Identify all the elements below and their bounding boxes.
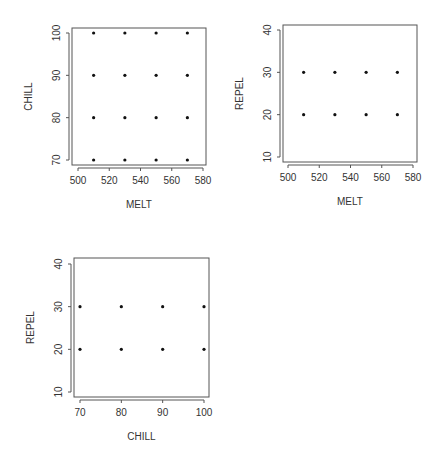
data-point	[396, 71, 399, 74]
plot-frame	[74, 258, 209, 397]
data-point	[365, 113, 368, 116]
data-point	[186, 74, 189, 77]
x-tick-label: 540	[342, 172, 359, 183]
data-point	[302, 71, 305, 74]
x-tick-label: 580	[195, 175, 212, 186]
data-point	[123, 31, 126, 34]
x-tick-label: 580	[405, 172, 422, 183]
y-tick-label: 10	[53, 386, 64, 398]
x-tick-label: 540	[132, 175, 149, 186]
data-point	[333, 71, 336, 74]
data-point	[92, 31, 95, 34]
x-tick-label: 90	[157, 407, 169, 418]
x-tick-label: 560	[373, 172, 390, 183]
data-point	[123, 116, 126, 119]
data-point	[155, 116, 158, 119]
y-axis-label: REPEL	[25, 311, 36, 344]
scatter-plot-repel-vs-melt: 500520540560580MELT10203040REPEL	[234, 24, 422, 207]
x-tick-label: 520	[101, 175, 118, 186]
data-point	[78, 305, 81, 308]
data-point	[123, 158, 126, 161]
y-tick-label: 80	[51, 112, 62, 124]
data-point	[92, 116, 95, 119]
plot-frame	[283, 25, 417, 162]
data-point	[186, 116, 189, 119]
x-tick-label: 100	[196, 407, 213, 418]
x-tick-label: 500	[70, 175, 87, 186]
scatter-plot-chill-vs-melt: 500520540560580MELT708090100CHILL	[23, 24, 212, 210]
x-tick-label: 70	[74, 407, 86, 418]
y-axis-label: CHILL	[23, 82, 34, 111]
x-axis-label: MELT	[337, 196, 363, 207]
data-point	[120, 348, 123, 351]
data-point	[302, 113, 305, 116]
y-tick-label: 30	[262, 66, 273, 78]
data-point	[186, 31, 189, 34]
data-point	[92, 158, 95, 161]
data-point	[202, 305, 205, 308]
data-point	[78, 348, 81, 351]
x-axis-label: CHILL	[127, 431, 156, 442]
y-axis-label: REPEL	[234, 77, 245, 110]
plot-frame	[72, 28, 206, 165]
data-point	[333, 113, 336, 116]
y-tick-label: 10	[262, 151, 273, 163]
data-point	[155, 158, 158, 161]
data-point	[155, 74, 158, 77]
data-point	[155, 31, 158, 34]
x-tick-label: 520	[311, 172, 328, 183]
data-point	[365, 71, 368, 74]
y-tick-label: 90	[51, 69, 62, 81]
y-tick-label: 20	[53, 343, 64, 355]
y-tick-label: 20	[262, 109, 273, 121]
x-axis-label: MELT	[126, 199, 152, 210]
y-tick-label: 30	[53, 301, 64, 313]
data-point	[161, 348, 164, 351]
y-tick-label: 100	[51, 24, 62, 41]
scatter-plot-repel-vs-chill: 708090100CHILL10203040REPEL	[25, 258, 213, 442]
y-tick-label: 40	[53, 258, 64, 270]
data-point	[161, 305, 164, 308]
data-point	[123, 74, 126, 77]
x-tick-label: 80	[116, 407, 128, 418]
y-tick-label: 40	[262, 24, 273, 36]
data-point	[186, 158, 189, 161]
data-point	[92, 74, 95, 77]
y-tick-label: 70	[51, 154, 62, 166]
data-point	[120, 305, 123, 308]
x-tick-label: 560	[163, 175, 180, 186]
data-point	[202, 348, 205, 351]
scatterplot-matrix: 500520540560580MELT708090100CHILL5005205…	[0, 0, 438, 454]
data-point	[396, 113, 399, 116]
x-tick-label: 500	[280, 172, 297, 183]
